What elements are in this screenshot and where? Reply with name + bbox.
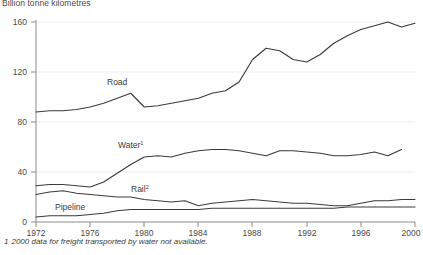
x-tick-label-1984: 1984: [189, 228, 208, 237]
x-tick-label-2000: 2000: [402, 228, 421, 237]
series-label-rail-text: Rail: [131, 184, 146, 194]
series-label-pipeline: Pipeline: [55, 202, 86, 212]
freight-transport-line-chart: Billion tonne kilometres 160 120 80 40 0: [0, 0, 423, 255]
x-axis: 1972 1976 1980 1984 1988 1992 1996 2000: [27, 222, 421, 237]
chart-footnote: 12000 data for freight transported by wa…: [4, 237, 208, 246]
data-series-group: [36, 22, 415, 217]
series-line-pipeline: [36, 207, 415, 217]
series-label-water: Water1: [118, 140, 143, 150]
series-label-water-footnote-ref: 1: [140, 140, 143, 146]
y-axis: 160 120 80 40 0: [13, 17, 36, 227]
footnote-number: 1: [4, 237, 8, 246]
x-tick-label-1976: 1976: [81, 228, 100, 237]
x-tick-label-1972: 1972: [27, 228, 46, 237]
y-tick-label-40: 40: [18, 167, 28, 177]
series-label-rail: Rail2: [131, 184, 149, 194]
series-label-rail-footnote-ref: 2: [146, 184, 149, 190]
chart-plot-area: 160 120 80 40 0 1972 1976 1980 1984 1988…: [0, 0, 423, 237]
x-tick-label-1996: 1996: [352, 228, 371, 237]
x-tick-label-1988: 1988: [243, 228, 262, 237]
y-tick-label-120: 120: [13, 67, 27, 77]
x-tick-label-1992: 1992: [298, 228, 317, 237]
footnote-text: 2000 data for freight transported by wat…: [11, 237, 207, 246]
y-tick-label-160: 160: [13, 17, 27, 27]
y-tick-label-80: 80: [18, 117, 28, 127]
series-label-water-text: Water: [118, 140, 141, 150]
y-tick-label-0: 0: [22, 217, 27, 227]
x-tick-label-1980: 1980: [135, 228, 154, 237]
series-line-road: [36, 22, 415, 112]
series-line-rail: [36, 191, 415, 206]
series-line-water: [36, 150, 401, 188]
series-label-road: Road: [107, 77, 128, 87]
